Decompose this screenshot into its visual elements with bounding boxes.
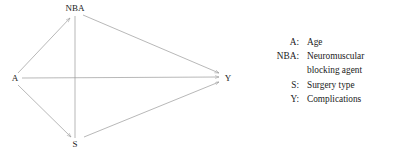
legend-row-continuation: blocking agent	[266, 63, 392, 77]
causal-dag-graph: NBA A S Y	[0, 0, 250, 152]
node-label-a: A	[12, 73, 19, 83]
legend-key: Y:	[266, 92, 299, 106]
node-label-nba: NBA	[65, 3, 85, 13]
legend-key: NBA:	[266, 49, 299, 63]
dag-nodes: NBA A S Y	[12, 3, 232, 149]
legend-key: S:	[266, 78, 299, 92]
legend-value: Neuromuscular	[299, 49, 364, 63]
edge-a-to-s	[18, 85, 71, 137]
legend: A: Age NBA: Neuromuscular blocking agent…	[266, 35, 392, 106]
legend-row: NBA: Neuromuscular	[266, 49, 392, 63]
dag-figure: NBA A S Y A: Age NBA: Neuromuscular bloc…	[0, 0, 395, 152]
legend-value: Surgery type	[299, 78, 355, 92]
node-label-y: Y	[225, 73, 232, 83]
edge-a-to-nba	[18, 18, 70, 73]
node-label-s: S	[72, 139, 77, 149]
legend-value: blocking agent	[299, 63, 362, 77]
legend-row: S: Surgery type	[266, 78, 392, 92]
edge-nba-to-y	[83, 15, 219, 73]
legend-row: A: Age	[266, 35, 392, 49]
legend-value: Age	[299, 35, 323, 49]
edge-s-to-y	[84, 82, 219, 137]
dag-edges	[18, 15, 219, 138]
legend-value: Complications	[299, 92, 361, 106]
legend-row: Y: Complications	[266, 92, 392, 106]
edge-a-to-y	[22, 77, 219, 78]
legend-key: A:	[266, 35, 299, 49]
